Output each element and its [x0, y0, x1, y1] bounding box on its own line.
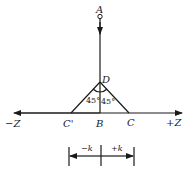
dimension-bar [69, 145, 134, 166]
label-minus-k: −k [81, 144, 93, 153]
label-b: B [95, 118, 103, 129]
angle-arc-left [93, 89, 100, 92]
angle-left-label: 45° [86, 96, 100, 105]
label-plus-k: +k [111, 144, 123, 153]
label-a: A [95, 4, 103, 15]
angle-arc-right [100, 89, 107, 92]
label-c-prime: C' [63, 118, 73, 129]
label-c: C [127, 117, 135, 128]
diagram-canvas: A D 45° 45° C' B C −Z +Z −k +k [0, 0, 188, 182]
label-positive-z: +Z [166, 117, 182, 128]
label-d: D [101, 74, 110, 85]
label-negative-z: −Z [5, 118, 21, 129]
angle-right-label: 45° [101, 97, 115, 106]
